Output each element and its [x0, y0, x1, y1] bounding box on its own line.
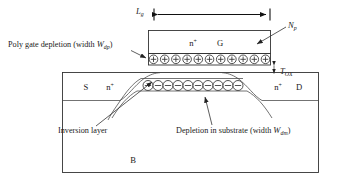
source-terminal-label: S — [84, 82, 89, 92]
gate-length-label: Lg — [135, 6, 144, 17]
gate-electrode: n+ G — [149, 31, 271, 54]
inversion-layer-leader — [96, 82, 152, 126]
body-terminal-label: B — [130, 155, 136, 165]
negative-charge-icon — [153, 81, 163, 91]
negative-charge-icon — [173, 81, 183, 91]
negative-charge-icon — [213, 81, 223, 91]
positive-charge-row — [149, 55, 270, 64]
negative-charge-icon — [183, 81, 193, 91]
positive-charge-icon — [250, 55, 259, 64]
positive-charge-icon — [261, 55, 270, 64]
gate-body-rect — [149, 31, 271, 54]
substrate-depletion-annotation: Depletion in substrate (width Wdm) — [176, 97, 291, 136]
oxide-thickness-indicator: TOX — [274, 66, 293, 78]
positive-charge-icon — [183, 55, 192, 64]
mosfet-cross-section-figure: Lg n+ G TOX B — [0, 0, 361, 185]
inversion-layer-annotation: Inversion layer — [58, 82, 152, 135]
negative-charge-icon — [233, 81, 243, 91]
poly-gate-depletion-band — [149, 54, 271, 66]
gate-terminal-label: G — [217, 38, 223, 48]
positive-charge-icon — [228, 55, 237, 64]
poly-gate-depletion-leader — [131, 51, 146, 59]
positive-charge-icon — [239, 55, 248, 64]
poly-gate-depletion-label: Poly gate depletion (width Wdp) — [8, 39, 113, 50]
negative-charge-icon — [163, 81, 173, 91]
positive-charge-icon — [160, 55, 169, 64]
positive-charge-icon — [216, 55, 225, 64]
negative-charge-icon — [203, 81, 213, 91]
negative-charge-icon — [223, 81, 233, 91]
drain-doping-label: n+ — [274, 82, 282, 92]
positive-charge-icon — [194, 55, 203, 64]
substrate-depletion-label: Depletion in substrate (width Wdm) — [176, 125, 291, 136]
gate-length-dimension: Lg — [135, 6, 270, 21]
mosfet-diagram-svg: Lg n+ G TOX B — [0, 0, 361, 185]
poly-doping-annotation: Np — [257, 20, 297, 44]
negative-charge-row — [143, 81, 243, 91]
positive-charge-icon — [172, 55, 181, 64]
gate-doping-label: n+ — [189, 38, 197, 48]
positive-charge-icon — [149, 55, 158, 64]
inversion-layer-label: Inversion layer — [58, 126, 108, 135]
poly-doping-leader — [257, 27, 286, 44]
source-doping-label: n+ — [106, 82, 114, 92]
negative-charge-icon — [193, 81, 203, 91]
positive-charge-icon — [205, 55, 214, 64]
poly-doping-label: Np — [287, 20, 297, 31]
poly-gate-depletion-annotation: Poly gate depletion (width Wdp) — [8, 39, 146, 58]
drain-terminal-label: D — [296, 82, 302, 92]
substrate-depletion-leader — [205, 97, 212, 125]
oxide-thickness-label: TOX — [280, 66, 293, 77]
